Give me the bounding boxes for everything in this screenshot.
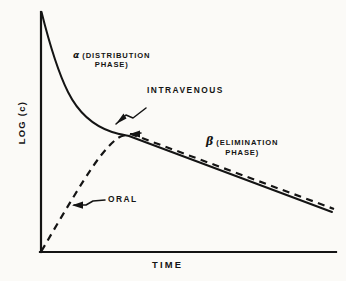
intravenous-label: INTRAVENOUS [147,86,224,96]
beta-elimination-phase-label: β (ELIMINATIONPHASE) [206,136,278,158]
oral-label: ORAL [108,195,138,205]
beta-phase-line1: (ELIMINATION [213,138,278,147]
alpha-phase-line2: PHASE) [73,61,150,70]
x-axis-label: TIME [152,259,183,270]
intravenous-leader [116,108,146,124]
oral-curve [42,134,335,251]
plot-canvas [0,0,346,281]
y-axis-label: LOG (c) [16,92,27,154]
intravenous-curve [42,12,333,212]
pharmacokinetics-figure: α (DISTRIBUTIONPHASE) INTRAVENOUS β (ELI… [0,0,346,281]
beta-phase-line2: PHASE) [206,149,278,158]
oral-leader [72,200,105,209]
alpha-distribution-phase-label: α (DISTRIBUTIONPHASE) [73,50,150,70]
alpha-phase-line1: (DISTRIBUTION [79,51,150,60]
